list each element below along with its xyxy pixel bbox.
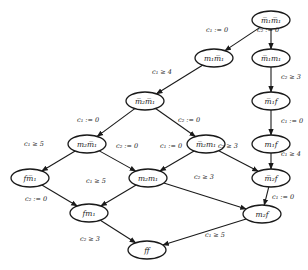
state-node: m̅₂f xyxy=(252,169,290,187)
state-node-label: m₁m̅₁ xyxy=(204,54,224,63)
state-node: m̅₁m₁ xyxy=(252,49,290,67)
state-node: m₁m̅₁ xyxy=(195,49,233,67)
state-node-label: m̅₂m₁ xyxy=(196,140,216,149)
state-node-label: m₂m̅₁ xyxy=(77,140,97,149)
state-node-label: m̅₂m̅₁ xyxy=(135,97,155,106)
state-node: fm̅₁ xyxy=(11,169,49,187)
state-node: m̅₂m̅₁ xyxy=(126,92,164,110)
edge-label: c₂ ≥ 3 xyxy=(194,173,214,181)
state-node-label: fm̅₁ xyxy=(23,174,37,183)
state-node: m₂m̅₁ xyxy=(68,135,106,153)
edge-label: c₁ ≥ 4 xyxy=(152,68,172,76)
state-node: m₂m₁ xyxy=(129,169,167,187)
state-node-label: m₂m₁ xyxy=(138,174,158,183)
edge-arrow xyxy=(219,151,258,172)
state-node: m₂f xyxy=(243,205,281,223)
nodes-layer: m̅₁m̅₁m₁m̅₁m̅₁m₁m̅₂m̅₁m̅₁fm₂m̅₁m̅₂m₁m₁ff… xyxy=(11,11,290,259)
edge-arrow xyxy=(100,220,135,243)
state-node-label: fm₁ xyxy=(82,209,96,218)
edge-label: c₂ := 0 xyxy=(25,195,47,203)
edge-arrow xyxy=(160,151,194,171)
edge-label: c₁ := 0 xyxy=(160,142,182,150)
edge-label: c₁ := 0 xyxy=(272,193,294,201)
state-node-label: m̅₁f xyxy=(265,97,279,106)
state-node-label: m̅₁m̅₁ xyxy=(261,16,281,25)
state-node: m̅₁f xyxy=(252,92,290,110)
edge-arrow xyxy=(99,151,135,171)
edge-label: c₁ ≥ 5 xyxy=(24,140,44,148)
edge-label: c₁ := 0 xyxy=(77,116,99,124)
edge-label: c₂ ≥ 3 xyxy=(80,235,100,243)
edge-label: c₂ ≥ 3 xyxy=(281,73,301,81)
edge-arrow xyxy=(97,109,135,137)
state-graph: m̅₁m̅₁m₁m̅₁m̅₁m₁m̅₂m̅₁m̅₁fm₂m̅₁m̅₂m₁m₁ff… xyxy=(0,0,308,270)
edge-label: c₂ := 0 xyxy=(116,142,138,150)
edge-label: c₁ := 0 xyxy=(281,117,303,125)
edge-label: c₁ ≥ 4 xyxy=(281,150,301,158)
state-node-label: m₂f xyxy=(256,210,270,219)
state-node: ff xyxy=(128,241,166,259)
edge-label: c₁ := 0 xyxy=(206,26,228,34)
state-node-label: m̅₁m₁ xyxy=(261,54,281,63)
state-node-label: m̅₂f xyxy=(265,174,279,183)
edge-label: c₂ := 0 xyxy=(257,26,279,34)
edge-arrow xyxy=(225,27,260,50)
state-node: fm₁ xyxy=(70,204,108,222)
edge-label: c₁ ≥ 5 xyxy=(205,231,225,239)
edge-label: c₂ := 0 xyxy=(178,116,200,124)
edge-arrow xyxy=(101,185,136,206)
state-node-label: m₁f xyxy=(265,140,279,149)
edge-arrow xyxy=(164,183,246,209)
edge-label: c₂ ≥ 3 xyxy=(218,142,238,150)
edge-arrow xyxy=(264,187,269,205)
edge-label: c₁ ≥ 5 xyxy=(86,177,106,185)
edge-arrow xyxy=(42,151,75,171)
